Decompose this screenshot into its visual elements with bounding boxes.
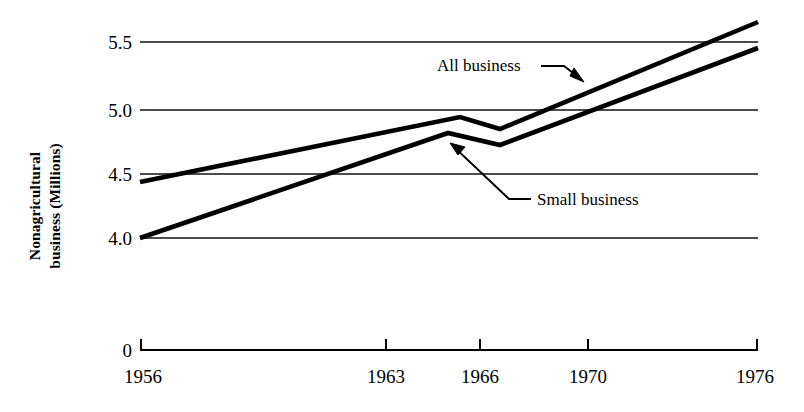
annotation-all-business-arrowhead <box>570 68 584 82</box>
series-line-all-business <box>140 22 758 182</box>
chart-container: 5.5 5.0 4.5 4.0 0 Nonagricultural busine… <box>0 0 804 412</box>
x-tick-label-1976: 1976 <box>736 366 774 387</box>
x-axis <box>140 339 758 350</box>
x-tick-labels: 1956 1963 1966 1970 1976 <box>124 366 774 387</box>
y-axis-title: Nonagricultural business (Millions) <box>26 143 64 269</box>
annotation-small-business-label: Small business <box>537 190 639 209</box>
annotation-all-business: All business <box>437 56 584 82</box>
x-tick-label-1956: 1956 <box>124 366 162 387</box>
x-tick-label-1963: 1963 <box>367 366 405 387</box>
data-series <box>140 22 758 238</box>
y-tick-label-5-5: 5.5 <box>108 32 132 53</box>
line-chart: 5.5 5.0 4.5 4.0 0 Nonagricultural busine… <box>0 0 804 412</box>
y-tick-label-5-0: 5.0 <box>108 100 132 121</box>
series-line-small-business <box>140 48 758 238</box>
x-tick-label-1970: 1970 <box>569 366 607 387</box>
y-tick-labels: 5.5 5.0 4.5 4.0 0 <box>108 32 132 361</box>
y-tick-label-4-5: 4.5 <box>108 164 132 185</box>
annotation-small-business: Small business <box>450 143 639 209</box>
annotation-small-business-leader-line <box>453 146 531 199</box>
annotation-all-business-label: All business <box>437 56 521 75</box>
y-tick-label-4-0: 4.0 <box>108 228 132 249</box>
y-tick-label-zero: 0 <box>123 340 133 361</box>
y-axis-title-line-1: Nonagricultural <box>26 151 43 260</box>
x-tick-label-1966: 1966 <box>461 366 499 387</box>
annotation-small-business-arrowhead <box>450 143 465 155</box>
y-axis-title-line-2: business (Millions) <box>46 143 64 269</box>
